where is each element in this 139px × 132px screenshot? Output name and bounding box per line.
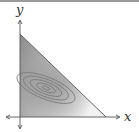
triangle-contour-diagram: y x [0,0,139,132]
feasible-region [20,34,106,117]
x-axis-label: x [124,109,132,124]
y-axis-label: y [15,2,24,17]
